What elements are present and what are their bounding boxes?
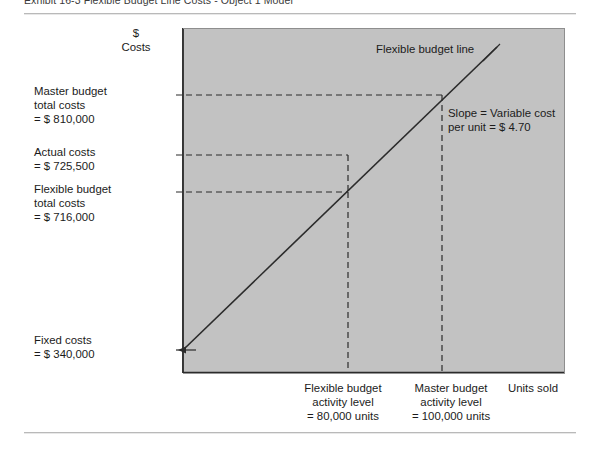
x-axis-title: Units sold <box>508 381 584 395</box>
flexible-budget-activity-level-label: Flexible budget activity level = 80,000 … <box>288 381 398 424</box>
flexible-budget-line-annotation: Flexible budget line <box>376 42 474 56</box>
exhibit-caption: Exhibit 16-3 Flexible Budget Line Costs … <box>24 0 293 6</box>
slope-annotation-line2: per unit = $ 4.70 <box>448 121 531 133</box>
plot-area <box>183 29 565 373</box>
y-axis-title-currency: $ <box>104 26 168 40</box>
slope-annotation: Slope = Variable costper unit = $ 4.70 <box>448 106 555 134</box>
divider-bottom <box>24 432 576 433</box>
actual-costs-label: Actual costs = $ 725,500 <box>34 145 176 173</box>
fixed-costs-label: Fixed costs = $ 340,000 <box>34 333 176 361</box>
master-budget-activity-level-label: Master budget activity level = 100,000 u… <box>396 381 506 424</box>
flexible-budget-total-costs-label: Flexible budget total costs = $ 716,000 <box>34 182 176 225</box>
y-axis-title-word: Costs <box>104 40 168 54</box>
master-budget-total-costs-label: Master budget total costs = $ 810,000 <box>34 84 176 127</box>
slope-annotation-line1: Slope = Variable cost <box>448 107 555 119</box>
